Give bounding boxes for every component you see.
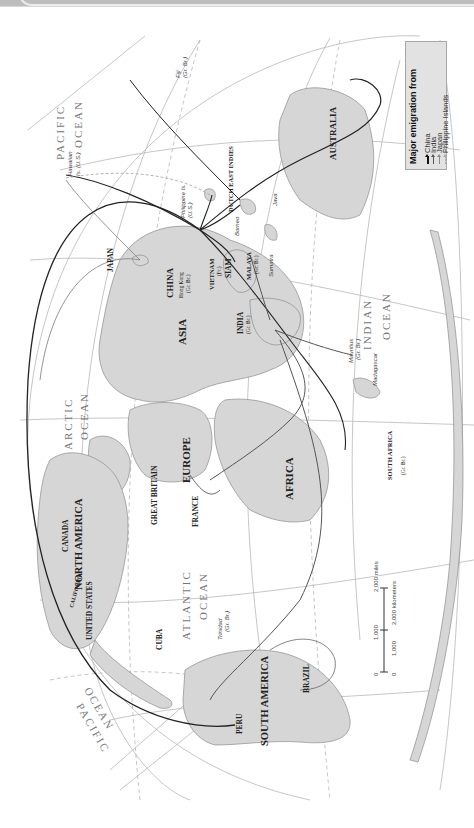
- label-cuba: CUBA: [155, 628, 164, 650]
- label-india-sub: (Gr. Br.): [245, 315, 252, 334]
- scale-km-1000: 1,000: [391, 640, 397, 656]
- label-vietnam-sub: (Fr.): [216, 266, 223, 276]
- label-fiji: Fiji: [175, 70, 181, 78]
- label-arctic-1: ARCTIC: [62, 398, 74, 450]
- label-indian-1: INDIAN: [361, 299, 373, 350]
- scale-km-2000: 2,000 kilometers: [391, 581, 397, 625]
- label-japan: JAPAN: [106, 247, 115, 272]
- label-south-africa-sub: (Gr. Br.): [400, 456, 407, 475]
- label-hong-kong-sub: (Gr. Br.): [185, 274, 192, 293]
- route-china-fiji: [130, 80, 240, 200]
- label-africa: AFRICA: [283, 457, 295, 500]
- label-united-states: UNITED STATES: [85, 581, 94, 640]
- label-trinidad: Trinidad: [217, 618, 223, 640]
- label-pacific-east-1: PACIFIC: [54, 105, 66, 160]
- scale-km-0: 0: [391, 672, 397, 676]
- label-arctic-2: OCEAN: [78, 392, 90, 440]
- label-china: CHINA: [165, 267, 175, 298]
- label-indian-2: OCEAN: [380, 292, 392, 340]
- label-great-britain: GREAT BRITAIN: [150, 465, 159, 525]
- label-malaya-sub: (Gr. Br.): [253, 255, 260, 274]
- land-masses: [37, 88, 463, 762]
- arrow-icon: [439, 156, 440, 164]
- label-mauritius: Mauritius: [348, 339, 354, 363]
- label-hawaiian-sub: Is. (U.S.): [75, 152, 81, 176]
- label-malaya: MALAYA: [245, 252, 252, 280]
- label-dutch-east-indies: DUTCH EAST INDIES: [227, 146, 234, 212]
- right-edge-landmass: [410, 230, 463, 762]
- label-india: INDIA: [236, 311, 245, 334]
- label-europe: EUROPE: [180, 437, 192, 483]
- borneo-landmass: [240, 199, 256, 214]
- europe-landmass: [128, 403, 212, 482]
- legend-item-philippines: Philippine Islands: [441, 95, 450, 164]
- label-france: FRANCE: [191, 496, 200, 527]
- label-siam: SIAM: [224, 258, 233, 278]
- scale-miles-0: 0: [373, 672, 379, 676]
- legend-box: Major emigration from China India Japan …: [405, 41, 447, 170]
- label-asia: ASIA: [176, 319, 188, 345]
- scale-miles-2000: 2,000 miles: [373, 561, 379, 592]
- label-pacific-east-2: OCEAN: [72, 100, 84, 148]
- label-mauritius-sub: (Gr. Br.): [355, 339, 361, 360]
- route-philippines-hawaii: [66, 173, 210, 195]
- label-fiji-sub: (Gr. Br.): [182, 57, 188, 78]
- label-philippine: Philippine Is.: [180, 184, 186, 218]
- arrow-icon: [445, 156, 446, 164]
- route-loop-france: [190, 475, 220, 494]
- label-vietnam: VIETNAM: [208, 259, 215, 290]
- label-brazil: BRAZIL: [302, 664, 311, 693]
- sumatra-landmass: [265, 224, 277, 240]
- label-sumatra: Sumatra: [268, 254, 274, 277]
- label-trinidad-sub: (Gr. Br.): [224, 611, 230, 632]
- label-atlantic-1: ATLANTIC: [180, 570, 192, 640]
- label-madagascar: Madagascar: [372, 352, 378, 386]
- legend-title: Major emigration from: [408, 69, 418, 164]
- label-south-africa: SOUTH AFRICA: [386, 430, 393, 480]
- label-hawaiian: Hawaiian: [67, 151, 73, 176]
- label-borneo: Borneo: [234, 216, 240, 236]
- label-south-america: SOUTH AMERICA: [259, 655, 270, 746]
- label-atlantic-2: OCEAN: [197, 572, 209, 620]
- label-java: Java: [272, 193, 278, 207]
- africa-landmass: [214, 399, 328, 522]
- label-peru: PERU: [235, 713, 244, 734]
- label-canada: CANADA: [61, 519, 70, 552]
- scale-miles-1000: 1,000: [373, 624, 379, 640]
- label-philippine-sub: (U.S.): [187, 202, 193, 218]
- world-map: 0 1,000 2,000 miles 0 1,000 2,000 kilome…: [0, 0, 474, 828]
- label-hong-kong: Hong Kong: [178, 272, 184, 298]
- australia-landmass: [279, 88, 374, 219]
- scale-bar: [380, 588, 388, 672]
- label-australia: AUSTRALIA: [328, 106, 338, 160]
